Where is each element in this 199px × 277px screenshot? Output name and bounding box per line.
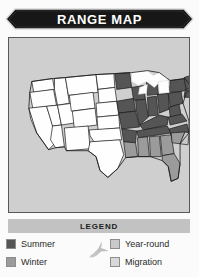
legend-item-summer: Summer	[6, 236, 90, 252]
legend-label-summer: Summer	[21, 239, 55, 249]
legend-swatch-winter	[6, 257, 16, 267]
legend-label-year-round: Year-round	[125, 239, 169, 249]
legend-label-migration: Migration	[125, 257, 162, 267]
legend-title: LEGEND	[80, 222, 118, 231]
legend-label-winter: Winter	[21, 257, 47, 267]
legend-swatch-summer	[6, 239, 16, 249]
map-panel	[8, 37, 190, 213]
flying-bird-icon	[84, 239, 114, 265]
range-map-card: RANGE MAP	[0, 0, 199, 277]
legend-title-bar: LEGEND	[8, 219, 190, 233]
map-region-none	[29, 74, 124, 178]
title-banner: RANGE MAP	[5, 8, 194, 30]
legend-item-winter: Winter	[6, 254, 90, 270]
legend-item-year-round: Year-round	[110, 236, 194, 252]
page-title: RANGE MAP	[5, 8, 194, 30]
legend-item-migration: Migration	[110, 254, 194, 270]
legend-column-right: Year-round Migration	[110, 236, 194, 272]
us-map-svg	[9, 38, 189, 212]
legend-column-left: Summer Winter	[6, 236, 90, 272]
